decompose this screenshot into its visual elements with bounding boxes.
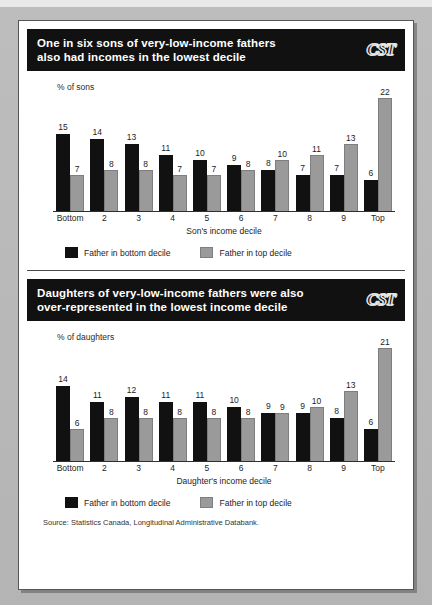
- bar-group: 621: [361, 344, 395, 461]
- bar-top-decile: 8: [139, 170, 153, 211]
- y-axis-label-daughters: % of daughters: [57, 332, 403, 342]
- x-tick-label: 9: [327, 463, 361, 473]
- bar-bottom-decile: 11: [159, 402, 173, 461]
- source-note: Source: Statistics Canada, Longitudinal …: [43, 518, 403, 527]
- bar-top-decile: 9: [275, 413, 289, 461]
- bar-bottom-decile: 14: [90, 139, 104, 211]
- bar-value-label: 8: [212, 407, 217, 417]
- x-axis-ticks-daughters: Bottom23456789Top: [53, 463, 395, 473]
- bar-value-label: 6: [369, 417, 374, 427]
- legend-item-bottom-decile-sons: Father in bottom decile: [65, 247, 170, 258]
- bar-value-label: 14: [58, 374, 67, 384]
- bar-group: 128: [121, 344, 155, 461]
- bar-top-decile: 8: [139, 418, 153, 461]
- bar-top-decile: 8: [173, 418, 187, 461]
- x-tick-label: Bottom: [53, 213, 87, 223]
- panel-sons: One in six sons of very-low-income fathe…: [19, 29, 413, 270]
- bar-value-label: 8: [143, 159, 148, 169]
- bar-group: 810: [258, 94, 292, 211]
- bar-value-label: 11: [195, 390, 204, 400]
- bar-value-label: 21: [380, 337, 389, 347]
- bar-group: 108: [224, 344, 258, 461]
- bar-group: 157: [53, 94, 87, 211]
- bar-group: 148: [87, 94, 121, 211]
- cst-logo-icon: CST: [351, 38, 395, 62]
- bar-value-label: 8: [177, 407, 182, 417]
- bar-top-decile: 8: [104, 418, 118, 461]
- bar-value-label: 10: [312, 396, 321, 406]
- bar-value-label: 9: [300, 401, 305, 411]
- x-tick-label: 2: [87, 463, 121, 473]
- x-tick-label: 8: [292, 463, 326, 473]
- bar-value-label: 9: [280, 402, 285, 412]
- bar-bottom-decile: 9: [227, 165, 241, 211]
- panel-title-daughters: Daughters of very-low-income fathers wer…: [37, 286, 351, 315]
- x-tick-label: 6: [224, 463, 258, 473]
- figure-card: One in six sons of very-low-income fathe…: [18, 20, 414, 590]
- bar-bottom-decile: 15: [56, 134, 70, 211]
- bar-bottom-decile: 6: [364, 429, 378, 461]
- bar-group: 910: [292, 344, 326, 461]
- bar-chart-daughters: 14611812811811810899910813621: [53, 344, 395, 462]
- bar-top-decile: 6: [70, 429, 84, 461]
- bar-value-label: 7: [334, 163, 339, 173]
- x-tick-label: 7: [258, 463, 292, 473]
- bar-value-label: 13: [346, 133, 355, 143]
- bar-value-label: 10: [229, 395, 238, 405]
- bar-top-decile: 8: [241, 170, 255, 211]
- legend-label-top-decile: Father in top decile: [219, 248, 291, 258]
- bar-top-decile: 8: [104, 170, 118, 211]
- bar-value-label: 8: [334, 406, 339, 416]
- bar-value-label: 7: [177, 164, 182, 174]
- bar-bottom-decile: 10: [193, 160, 207, 211]
- bar-bottom-decile: 8: [330, 418, 344, 461]
- bar-group: 146: [53, 344, 87, 461]
- bar-groups-daughters: 14611812811811810899910813621: [53, 344, 395, 461]
- bar-top-decile: 13: [344, 144, 358, 211]
- bar-value-label: 13: [127, 132, 136, 142]
- legend-item-bottom-decile-daughters: Father in bottom decile: [65, 497, 170, 508]
- bar-group: 713: [327, 94, 361, 211]
- bar-value-label: 7: [300, 163, 305, 173]
- bar-bottom-decile: 10: [227, 407, 241, 461]
- bar-group: 118: [190, 344, 224, 461]
- bar-bottom-decile: 11: [90, 402, 104, 461]
- cst-logo-icon: CST: [351, 288, 395, 312]
- x-axis-title-daughters: Daughter's income decile: [53, 476, 395, 486]
- x-tick-label: 4: [156, 213, 190, 223]
- bar-value-label: 7: [75, 164, 80, 174]
- legend-label-bottom-decile: Father in bottom decile: [84, 248, 170, 258]
- bar-group: 138: [121, 94, 155, 211]
- x-tick-label: 4: [156, 463, 190, 473]
- bar-group: 813: [327, 344, 361, 461]
- x-axis-title-sons: Son's income decile: [53, 226, 395, 236]
- x-tick-label: 3: [121, 463, 155, 473]
- bar-top-decile: 7: [173, 175, 187, 211]
- bar-bottom-decile: 8: [261, 170, 275, 211]
- bar-value-label: 15: [58, 122, 67, 132]
- bar-value-label: 8: [246, 407, 251, 417]
- panel-header-sons: One in six sons of very-low-income fathe…: [27, 29, 405, 71]
- x-tick-label: 9: [327, 213, 361, 223]
- bar-value-label: 8: [266, 158, 271, 168]
- bar-value-label: 10: [195, 148, 204, 158]
- x-tick-label: 5: [190, 463, 224, 473]
- x-tick-label: 6: [224, 213, 258, 223]
- bar-top-decile: 11: [310, 155, 324, 211]
- bar-top-decile: 10: [310, 407, 324, 461]
- bar-bottom-decile: 6: [364, 180, 378, 211]
- x-tick-label: Top: [361, 463, 395, 473]
- bar-bottom-decile: 11: [159, 155, 173, 211]
- bar-value-label: 11: [161, 390, 170, 400]
- bar-top-decile: 13: [344, 391, 358, 461]
- bar-chart-sons: 15714813811710798810711713622: [53, 94, 395, 212]
- plot-area-daughters: % of daughters 1461181281181181089991081…: [19, 332, 413, 539]
- x-tick-label: 8: [292, 213, 326, 223]
- x-tick-label: 3: [121, 213, 155, 223]
- bar-value-label: 13: [346, 380, 355, 390]
- panel-daughters: Daughters of very-low-income fathers wer…: [19, 279, 413, 539]
- bar-top-decile: 21: [378, 348, 392, 461]
- bar-top-decile: 7: [207, 175, 221, 211]
- x-tick-label: 7: [258, 213, 292, 223]
- legend-item-top-decile-sons: Father in top decile: [200, 247, 291, 258]
